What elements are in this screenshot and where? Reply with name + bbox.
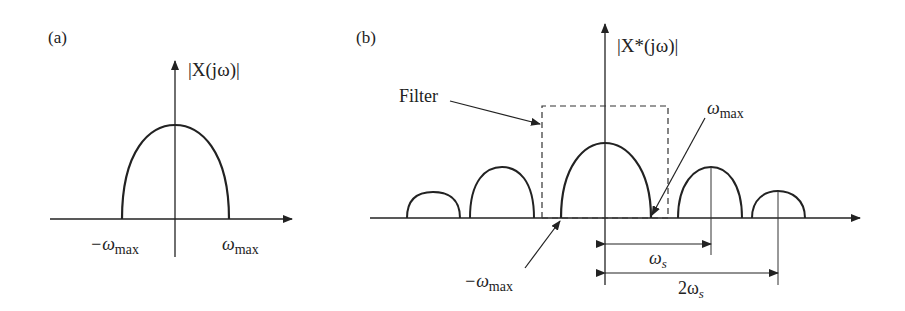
neg-omega-max-label-b: −ωmax (464, 271, 513, 294)
y-axis-label-b: |X*(jω)| (617, 35, 678, 57)
alias-lobe-right (678, 167, 742, 218)
panel-a: (a) |X(jω)| −ωmax ωmax (48, 28, 292, 257)
tick-neg-omega-max-a: −ωmax (90, 234, 139, 257)
omega-max-arrow (652, 118, 705, 215)
panel-b: (b) |X*(jω)| ωs 2ωs Filter ωmax −ωmax (356, 24, 860, 301)
sampling-spectrum-diagram: (a) |X(jω)| −ωmax ωmax (b) |X*(jω)| ωs 2… (0, 0, 905, 311)
alias-lobe-left (470, 167, 534, 218)
omega-s-label: ωs (649, 248, 667, 271)
neg-omega-max-arrow (525, 221, 560, 268)
panel-b-label: (b) (356, 28, 376, 47)
tick-omega-max-a: ωmax (222, 234, 259, 257)
filter-arrow (450, 101, 540, 124)
omega-max-label-b: ωmax (707, 98, 744, 121)
two-omega-s-label: 2ωs (678, 278, 704, 301)
y-axis-label-a: |X(jω)| (188, 59, 240, 81)
baseband-lobe (561, 143, 651, 218)
filter-label: Filter (399, 86, 438, 106)
panel-a-label: (a) (48, 28, 67, 47)
alias-lobe-far-left (407, 192, 460, 218)
